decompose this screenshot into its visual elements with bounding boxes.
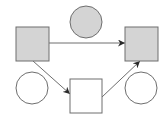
node-square-left [16,27,49,61]
node-circle-left [16,72,48,104]
node-square-middle [70,79,102,113]
node-square-right [125,27,158,61]
nodes-group [16,6,158,113]
diagram-canvas [0,0,167,117]
node-circle-right [125,72,157,104]
node-circle-top [70,6,102,38]
